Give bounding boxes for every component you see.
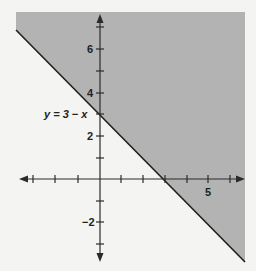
shaded-region [16,12,245,262]
x-tick-label-5: 5 [205,186,211,198]
x-axis-left-arrow-icon [19,176,28,183]
y-tick-label-neg2: −2 [82,216,95,228]
y-tick-label-6: 6 [87,43,93,55]
y-tick-label-4: 4 [87,87,94,99]
y-tick-label-2: 2 [87,130,93,142]
equation-label: y = 3 − x [43,108,88,120]
inequality-graph: 6 4 2 −2 5 y = 3 − x [0,0,256,271]
y-axis-down-arrow-icon [97,253,104,262]
